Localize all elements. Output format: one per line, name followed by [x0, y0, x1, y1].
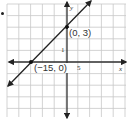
point-label-x-intercept: (−15, 0)	[33, 63, 68, 73]
y-axis-label: y	[70, 5, 73, 12]
x-tick-label: 5	[77, 65, 81, 72]
y-tick-label: 1	[61, 47, 65, 54]
x-axis-label: x	[119, 66, 122, 73]
point-label-y-intercept: (0, 3)	[68, 28, 92, 38]
graph-svg	[0, 0, 132, 121]
coordinate-plane: y x 1 5 (−15, 0) (0, 3)	[0, 0, 132, 121]
